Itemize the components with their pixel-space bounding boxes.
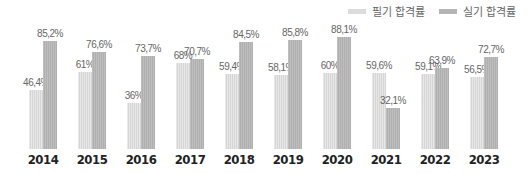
value-label-practical-2018: 84,5% (233, 29, 259, 40)
bar-written-2021 (372, 73, 386, 149)
bar-practical-2020 (337, 37, 351, 149)
value-label-practical-2021: 32,1% (380, 95, 406, 106)
x-axis-label-2016: 2016 (126, 152, 157, 167)
value-label-practical-2019: 85,8% (282, 27, 308, 38)
bar-practical-2019 (288, 40, 302, 149)
value-label-practical-2022: 63,9% (429, 55, 455, 66)
x-axis-label-2020: 2020 (322, 152, 353, 167)
x-axis-label-2019: 2019 (273, 152, 304, 167)
bar-written-2015 (78, 72, 92, 149)
x-axis-label-2021: 2021 (371, 152, 402, 167)
bar-written-2020 (323, 73, 337, 149)
bar-written-2014 (29, 90, 43, 149)
value-label-practical-2020: 88,1% (331, 24, 357, 35)
bar-written-2018 (225, 74, 239, 149)
value-label-practical-2023: 72,7% (478, 44, 504, 55)
bar-written-2019 (274, 75, 288, 149)
bar-practical-2014 (43, 41, 57, 149)
bar-practical-2016 (141, 56, 155, 149)
x-axis-label-2022: 2022 (420, 152, 451, 167)
value-label-practical-2016: 73,7% (135, 43, 161, 54)
bar-written-2017 (176, 63, 190, 149)
value-label-practical-2014: 85,2% (37, 28, 63, 39)
bar-practical-2022 (435, 68, 449, 149)
x-axis-label-2017: 2017 (175, 152, 206, 167)
x-axis-label-2018: 2018 (224, 152, 255, 167)
x-axis-label-2015: 2015 (77, 152, 108, 167)
bar-chart-plot-area: 46,4%85,2%201461%76,6%201536%73,7%201668… (0, 0, 528, 173)
bar-practical-2015 (92, 52, 106, 149)
value-label-practical-2017: 70,7% (184, 46, 210, 57)
bar-written-2022 (421, 74, 435, 149)
bar-practical-2021 (386, 108, 400, 149)
x-axis-label-2023: 2023 (469, 152, 500, 167)
value-label-written-2021: 59,6% (366, 60, 392, 71)
bar-practical-2023 (484, 57, 498, 149)
value-label-practical-2015: 76,6% (86, 39, 112, 50)
bar-practical-2017 (190, 59, 204, 149)
bar-written-2023 (470, 77, 484, 149)
bar-written-2016 (127, 103, 141, 149)
x-axis-label-2014: 2014 (28, 152, 59, 167)
bar-practical-2018 (239, 42, 253, 149)
